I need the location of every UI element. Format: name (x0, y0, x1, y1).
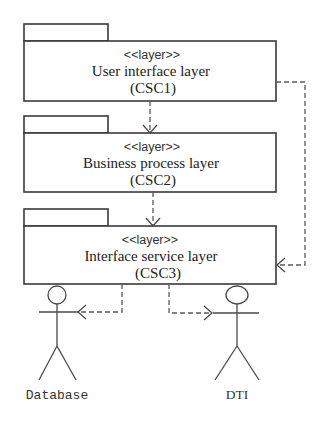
actor-label: DTI (226, 387, 249, 402)
stick-figure-icon (39, 286, 78, 380)
package-code: (CSC3) (135, 265, 181, 282)
actor-database: Database (26, 286, 88, 403)
package-interface-service-layer: <<layer>> Interface service layer (CSC3) (24, 209, 276, 284)
package-tab (24, 116, 108, 133)
dependency-csc1-to-csc3 (276, 82, 305, 272)
stick-figure-icon (213, 286, 259, 380)
package-user-interface-layer: <<layer>> User interface layer (CSC1) (24, 24, 276, 101)
clipped-caption (10, 425, 324, 431)
package-code: (CSC1) (130, 80, 176, 97)
dependency-csc3-to-database (78, 284, 122, 319)
dependency-csc1-to-csc2 (143, 101, 157, 133)
package-tab (24, 24, 108, 41)
package-name: Interface service layer (84, 248, 217, 264)
layer-diagram: <<layer>> User interface layer (CSC1) <<… (0, 0, 324, 431)
dependency-csc3-to-dti (169, 284, 212, 320)
actor-label: Database (26, 388, 88, 403)
package-stereotype: <<layer>> (122, 233, 178, 247)
package-name: User interface layer (92, 63, 210, 79)
package-code: (CSC2) (130, 172, 176, 189)
package-name: Business process layer (83, 155, 219, 171)
package-stereotype: <<layer>> (124, 140, 180, 154)
package-stereotype: <<layer>> (124, 48, 180, 62)
actor-dti: DTI (213, 286, 259, 402)
dependency-csc2-to-csc3 (146, 192, 160, 226)
package-tab (24, 209, 108, 226)
